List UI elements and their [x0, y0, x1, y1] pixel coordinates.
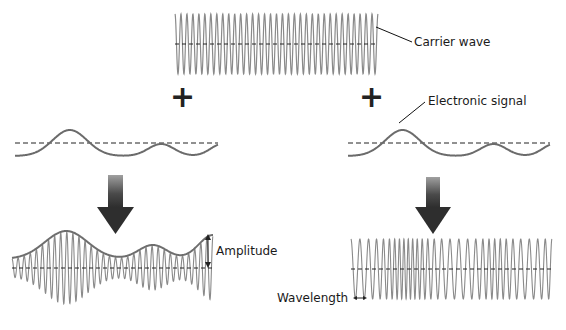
down-arrow-left-icon [97, 175, 134, 234]
wavelength-label: Wavelength [277, 291, 348, 305]
electronic-signal-label: Electronic signal [428, 94, 526, 108]
down-arrow-right-icon [415, 177, 451, 234]
signal-label-leader [399, 102, 425, 123]
am-wave [12, 231, 213, 304]
signal-right [348, 130, 550, 156]
carrier-wave [175, 14, 378, 74]
signal-left [15, 130, 218, 156]
plus-icon-left: + [170, 82, 195, 112]
plus-icon-right: + [359, 82, 384, 112]
fm-wave [351, 239, 552, 299]
amplitude-label: Amplitude [216, 244, 278, 258]
modulation-diagram [0, 0, 566, 330]
carrier-label-leader [376, 27, 412, 42]
carrier-wave-label: Carrier wave [414, 35, 491, 49]
